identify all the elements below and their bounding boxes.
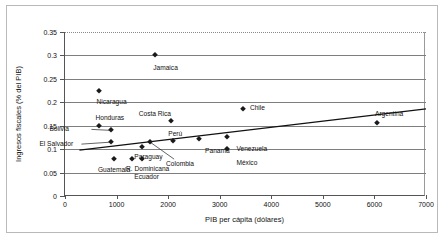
plot-area: 00.050.10.150.20.250.30.35 0100020003000… bbox=[64, 32, 425, 196]
data-point-label: Argentina bbox=[375, 110, 403, 117]
data-point-label: Colombia bbox=[166, 160, 194, 167]
x-axis-tick-label: 5000 bbox=[315, 201, 331, 208]
x-axis-tick-label: 0 bbox=[63, 201, 67, 208]
data-point-label: Costa Rica bbox=[139, 110, 171, 117]
x-axis-tick-label: 3000 bbox=[212, 201, 228, 208]
data-point-label: Nicaragua bbox=[97, 98, 127, 105]
y-axis-title-text: Ingresos fiscales (% del PIB) bbox=[15, 66, 23, 162]
figure-container: Ingresos fiscales (% del PIB) 00.050.10.… bbox=[0, 0, 445, 239]
x-axis-tick bbox=[426, 195, 427, 199]
x-axis-tick-label: 4000 bbox=[263, 201, 279, 208]
data-point-label: México bbox=[236, 159, 257, 166]
x-axis-tick-label: 1000 bbox=[109, 201, 125, 208]
y-axis-tick-label: 0 bbox=[53, 193, 57, 200]
x-axis-tick-label: 2000 bbox=[160, 201, 176, 208]
y-axis-tick-label: 0.35 bbox=[43, 29, 57, 36]
data-point-label: Chile bbox=[250, 104, 265, 111]
y-axis-tick-label: 0.3 bbox=[47, 52, 57, 59]
data-point-label: Ecuador bbox=[134, 173, 159, 180]
data-point-label: R. Dominicana bbox=[126, 165, 169, 172]
y-axis-title: Ingresos fiscales (% del PIB) bbox=[13, 32, 25, 196]
y-axis-tick-label: 0.25 bbox=[43, 75, 57, 82]
x-axis-tick-label: 6000 bbox=[367, 201, 383, 208]
data-point-label: Jamaica bbox=[153, 64, 178, 71]
data-point-label: Honduras bbox=[96, 114, 125, 121]
y-axis-tick-label: 0.05 bbox=[43, 169, 57, 176]
data-point-label: Perú bbox=[168, 130, 182, 137]
data-point-label: El Salvador bbox=[39, 140, 73, 147]
data-point-label: Bolivia bbox=[49, 125, 68, 132]
data-point-label: Venezuela bbox=[236, 145, 267, 152]
x-axis-title: PIB per cápita (dólares) bbox=[64, 216, 425, 224]
x-axis-tick-label: 7000 bbox=[418, 201, 434, 208]
y-axis-tick-label: 0.2 bbox=[47, 99, 57, 106]
